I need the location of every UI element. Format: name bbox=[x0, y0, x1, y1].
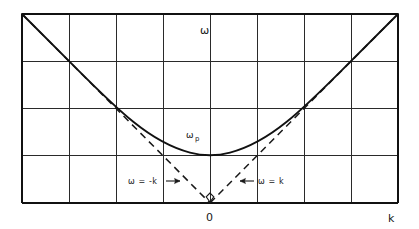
y-axis-symbol: ω bbox=[200, 24, 209, 37]
origin-tick-label: 0 bbox=[206, 211, 213, 224]
chart-canvas: ω p ω = -k ω = k ω k 0 bbox=[0, 0, 419, 229]
omega-p-label: ω bbox=[186, 130, 194, 140]
light-line-negative-label: ω = -k bbox=[128, 177, 158, 186]
dispersion-relation-figure: ω p ω = -k ω = k ω k 0 bbox=[0, 0, 419, 229]
x-axis-symbol: k bbox=[388, 212, 395, 225]
light-line-positive-label: ω = k bbox=[258, 177, 284, 186]
omega-p-subscript: p bbox=[195, 135, 200, 143]
